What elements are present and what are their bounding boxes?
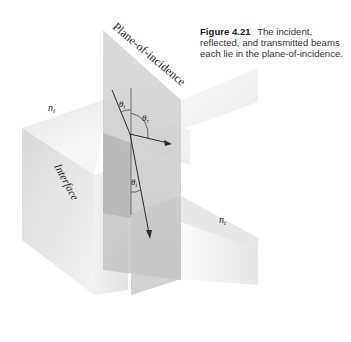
n-incident-label: ni — [48, 102, 55, 115]
figure-number: Figure 4.21 — [200, 26, 251, 37]
figure-caption: Figure 4.21 The incident, reflected, and… — [200, 26, 348, 60]
